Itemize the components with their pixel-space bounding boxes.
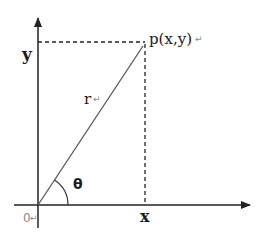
radius-label: r [84,90,92,108]
radius-line [38,46,143,205]
y-axis-label: y [21,44,33,64]
point-label: p(x,y) [149,30,192,48]
origin-return-marker: ↵ [30,213,38,223]
x-axis-label: x [140,207,150,226]
radius-return-marker: ↵ [93,94,101,104]
angle-arc [55,180,69,205]
polar-coordinate-diagram: y x p(x,y) ↵ r ↵ θ 0 ↵ [0,0,270,248]
angle-label: θ [73,176,83,192]
point-return-marker: ↵ [195,34,203,44]
